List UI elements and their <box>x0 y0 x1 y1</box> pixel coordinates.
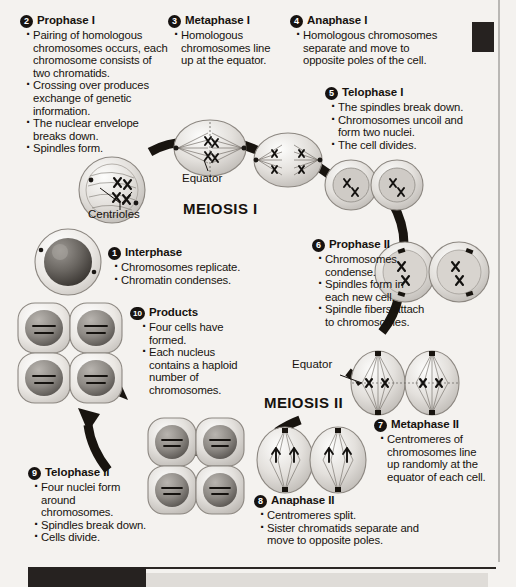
step-metaphase-2: 7 Metaphase II Centromeres of chromosome… <box>374 418 486 483</box>
bottom-left-marker <box>28 567 146 587</box>
step-interphase: 1 Interphase Chromosomes replicate. Chro… <box>108 246 258 286</box>
cell-telophase-2 <box>148 418 244 514</box>
bullet: The cell divides. <box>331 139 477 152</box>
cell-interphase <box>35 229 101 295</box>
cell-metaphase-2 <box>351 351 460 415</box>
step-title: Interphase <box>125 246 182 259</box>
cell-metaphase-1 <box>174 120 247 176</box>
step-telophase-2: 9 Telophase II Four nuclei form around c… <box>28 466 146 544</box>
equator-label-1: Equator <box>182 172 222 184</box>
step-header: 10 Products <box>130 306 248 320</box>
step-bullets: Four cells have formed. Each nucleus con… <box>130 321 248 397</box>
step-header: 2 Prophase I <box>20 14 170 28</box>
centrioles-label: Centrioles <box>88 208 140 220</box>
bullet: Crossing over produces exchange of genet… <box>26 79 170 117</box>
cell-products <box>18 303 122 403</box>
meiosis-1-label: MEIOSIS I <box>183 200 257 217</box>
bullet: Chromosomes replicate. <box>114 261 258 274</box>
step-title: Anaphase II <box>271 494 334 507</box>
cell-telophase-1 <box>325 160 423 210</box>
equator-label-2: Equator <box>292 358 332 370</box>
bullet: Spindles form in each new cell. <box>318 278 430 303</box>
step-prophase-2: 6 Prophase II Chromosomes condense. Spin… <box>312 238 430 329</box>
meiosis-2-label: MEIOSIS II <box>264 394 343 411</box>
step-metaphase-1: 3 Metaphase I Homologous chromosomes lin… <box>168 14 272 67</box>
top-right-marker <box>472 22 494 52</box>
bullet: Four nuclei form around chromosomes. <box>34 481 146 519</box>
step-header: 8 Anaphase II <box>254 494 434 508</box>
step-bullets: Homologous chromosomes line up at the eq… <box>168 29 272 67</box>
step-header: 9 Telophase II <box>28 466 146 480</box>
bullet: Homologous chromosomes separate and move… <box>296 29 450 67</box>
cell-anaphase-2 <box>257 427 366 493</box>
step-header: 1 Interphase <box>108 246 258 260</box>
chromosome-pair <box>113 178 131 204</box>
step-bullets: Pairing of homologous chromosomes occurs… <box>20 29 170 155</box>
cycle-arrow-left <box>78 408 108 470</box>
step-bullets: The spindles break down. Chromosomes unc… <box>325 101 477 151</box>
step-header: 7 Metaphase II <box>374 418 486 432</box>
step-anaphase-2: 8 Anaphase II Centromeres split. Sister … <box>254 494 434 547</box>
step-title: Prophase II <box>329 238 390 251</box>
bullet: Homologous chromosomes line up at the eq… <box>174 29 272 67</box>
spindle-fibers <box>178 133 242 163</box>
bullet: Centromeres of chromosomes line up rando… <box>380 433 486 483</box>
step-title: Telophase I <box>342 86 403 99</box>
bullet: Pairing of homologous chromosomes occurs… <box>26 29 170 79</box>
cell-anaphase-1 <box>254 133 323 187</box>
bullet: Spindles break down. <box>34 519 146 532</box>
page-vertical-rule <box>498 0 500 562</box>
step-bullets: Homologous chromosomes separate and move… <box>290 29 450 67</box>
bullet: The nuclear envelope breaks down. <box>26 117 170 142</box>
step-bullets: Centromeres of chromosomes line up rando… <box>374 433 486 483</box>
step-telophase-1: 5 Telophase I The spindles break down. C… <box>325 86 477 151</box>
step-header: 4 Anaphase I <box>290 14 450 28</box>
step-prophase-1: 2 Prophase I Pairing of homologous chrom… <box>20 14 170 155</box>
step-title: Anaphase I <box>307 14 367 27</box>
step-bullets: Chromosomes condense. Spindles form in e… <box>312 253 430 329</box>
bullet: Spindles form. <box>26 142 170 155</box>
meiosis-diagram: 2 Prophase I Pairing of homologous chrom… <box>0 0 516 587</box>
step-title: Prophase I <box>37 14 95 27</box>
step-header: 6 Prophase II <box>312 238 430 252</box>
step-anaphase-1: 4 Anaphase I Homologous chromosomes sepa… <box>290 14 450 67</box>
step-title: Products <box>149 306 198 319</box>
step-title: Metaphase I <box>185 14 250 27</box>
bullet: Chromosomes condense. <box>318 253 430 278</box>
step-bullets: Chromosomes replicate. Chromatin condens… <box>108 261 258 286</box>
step-title: Metaphase II <box>391 418 459 431</box>
bullet: Chromatin condenses. <box>114 274 258 287</box>
step-header: 5 Telophase I <box>325 86 477 100</box>
step-bullets: Four nuclei form around chromosomes. Spi… <box>28 481 146 544</box>
bullet: Cells divide. <box>34 531 146 544</box>
bullet: Spindle fibers attach to chromosomes. <box>318 303 430 328</box>
bullet: The spindles break down. <box>331 101 477 114</box>
bullet: Centromeres split. <box>260 509 434 522</box>
step-title: Telophase II <box>45 466 109 479</box>
bullet: Four cells have formed. <box>142 321 248 346</box>
step-header: 3 Metaphase I <box>168 14 272 28</box>
step-products: 10 Products Four cells have formed. Each… <box>130 306 248 397</box>
bullet: Chromosomes uncoil and form two nuclei. <box>331 114 477 139</box>
bullet: Sister chromatids separate and move to o… <box>260 522 434 547</box>
step-bullets: Centromeres split. Sister chromatids sep… <box>254 509 434 547</box>
bullet: Each nucleus contains a haploid number o… <box>142 346 248 396</box>
cycle-arrow-products <box>108 382 128 400</box>
